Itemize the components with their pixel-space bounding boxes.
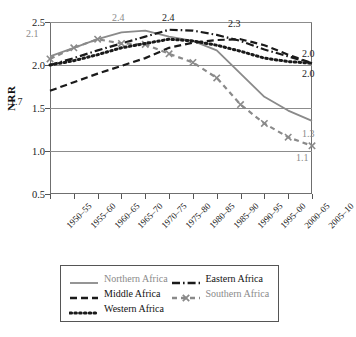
legend-item[interactable]: Southern Africa [171, 288, 273, 299]
x-tick-mark [217, 194, 218, 199]
x-tick-mark [74, 194, 75, 199]
legend-row: Northern AfricaEastern Africa [69, 271, 272, 286]
x-tick-label: 1970–75 [159, 201, 188, 230]
plot-area: 0.51.01.52.02.5 1950–551955–601960–65196… [50, 22, 312, 194]
x-tick-mark [121, 194, 122, 199]
y-tick-label: 1.5 [32, 103, 45, 114]
x-tick-mark [241, 194, 242, 199]
legend-swatch-icon [171, 274, 201, 284]
legend-label: Eastern Africa [206, 273, 263, 284]
chart-legend: Northern AfricaEastern AfricaMiddle Afri… [60, 265, 279, 322]
series-marker-x [309, 143, 315, 149]
data-label: 1.7 [10, 96, 23, 107]
legend-label: Northern Africa [104, 273, 168, 284]
legend-item[interactable]: Northern Africa [69, 273, 171, 284]
x-tick-mark [264, 194, 265, 199]
legend-swatch-icon [69, 304, 99, 314]
data-label: 2.0 [302, 68, 315, 79]
legend-item[interactable]: Middle Africa [69, 288, 171, 299]
series-marker-x [214, 75, 220, 81]
x-tick-mark [98, 194, 99, 199]
y-tick-label: 1.0 [32, 146, 45, 157]
legend-label: Middle Africa [104, 288, 160, 299]
x-tick-mark [288, 194, 289, 199]
x-tick-mark [169, 194, 170, 199]
legend-swatch-icon [171, 289, 201, 299]
series-line [50, 31, 312, 121]
legend-label: Southern Africa [206, 288, 270, 299]
data-label: 1.3 [302, 128, 315, 139]
legend-item[interactable]: Eastern Africa [171, 273, 273, 284]
x-tick-mark [50, 194, 51, 199]
series-lines [50, 22, 312, 194]
series-line [50, 39, 312, 91]
data-label: 2.1 [26, 28, 39, 39]
data-label: 2.3 [228, 18, 241, 29]
y-tick-label: 0.5 [32, 189, 45, 200]
x-tick-label: 2000–05 [302, 201, 331, 230]
x-tick-label: 1950–55 [64, 201, 93, 230]
series-line [50, 39, 312, 146]
y-tick-label: 2.0 [32, 60, 45, 71]
legend-swatch-icon [69, 289, 99, 299]
legend-row: Middle AfricaSouthern Africa [69, 286, 272, 301]
data-label: 1.1 [296, 152, 309, 163]
data-label: 2.0 [302, 48, 315, 59]
x-tick-mark [312, 194, 313, 199]
y-tick-label: 2.5 [32, 17, 45, 28]
series-marker-x [261, 120, 267, 126]
x-tick-mark [193, 194, 194, 199]
legend-item[interactable]: Western Africa [69, 303, 272, 314]
x-tick-label: 1975–80 [183, 201, 212, 230]
legend-label: Western Africa [104, 303, 164, 314]
data-label: 2.4 [112, 12, 125, 23]
data-label: 2.4 [162, 12, 175, 23]
x-tick-label: 2005–10 [326, 201, 355, 230]
x-tick-mark [145, 194, 146, 199]
series-marker-x [237, 101, 243, 107]
legend-swatch-icon [69, 274, 99, 284]
legend-row: Western Africa [69, 301, 272, 316]
